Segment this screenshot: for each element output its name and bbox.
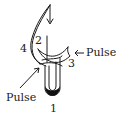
left-pulse-arrow-icon	[20, 68, 39, 88]
label-pulse-right: Pulse	[86, 47, 116, 58]
label-4: 4	[20, 43, 27, 54]
right-pulse-arrow-icon	[75, 50, 84, 56]
crescent-path-2	[38, 47, 68, 56]
label-3: 3	[68, 58, 75, 69]
label-pulse-left: Pulse	[6, 92, 36, 103]
label-2: 2	[35, 35, 42, 46]
label-1: 1	[50, 103, 57, 114]
u-tube-inner	[49, 62, 56, 91]
u-tube-fill	[45, 86, 60, 96]
